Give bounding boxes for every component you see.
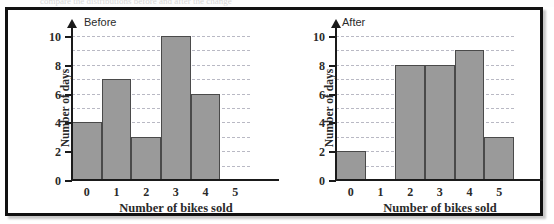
- x-axis-title-after: Number of bikes sold: [383, 201, 496, 216]
- x-tick-label: 1: [378, 185, 384, 200]
- x-axis-title-before: Number of bikes sold: [119, 201, 232, 216]
- x-tick-label: 3: [437, 185, 443, 200]
- y-tick: 2: [65, 151, 72, 153]
- bar: [72, 122, 102, 180]
- y-tick-label: 10: [49, 30, 61, 45]
- x-tick-label: 5: [496, 185, 502, 200]
- x-tick-label: 0: [84, 185, 90, 200]
- y-tick: 2: [329, 151, 336, 153]
- chart-before: Before0246810012345Number of bikes soldN…: [10, 10, 276, 213]
- x-axis-line-after: [335, 179, 543, 181]
- y-tick-label: 10: [313, 30, 325, 45]
- y-tick-label: 0: [55, 174, 61, 189]
- y-tick: 8: [329, 65, 336, 67]
- y-tick-label: 2: [55, 145, 61, 160]
- y-tick: 0: [329, 180, 336, 182]
- bars-before: [72, 36, 250, 180]
- y-axis-title-after: Number of days: [323, 69, 335, 147]
- y-tick: 10: [65, 36, 72, 38]
- bar: [484, 137, 514, 180]
- plot-area-before: 0246810012345Number of bikes soldNumber …: [72, 36, 250, 180]
- bar: [455, 50, 485, 180]
- x-tick-label: 5: [232, 185, 238, 200]
- y-axis-line-after: [335, 25, 337, 180]
- bar: [161, 36, 191, 180]
- y-tick: 8: [65, 65, 72, 67]
- bar: [191, 94, 221, 180]
- chart-title-after: After: [342, 16, 365, 28]
- bar: [131, 137, 161, 180]
- x-tick-label: 2: [407, 185, 413, 200]
- y-tick-label: 0: [319, 174, 325, 189]
- x-axis-line-before: [71, 179, 279, 181]
- chart-after: After0246810012345Number of bikes soldNu…: [274, 10, 540, 213]
- x-tick-label: 4: [467, 185, 473, 200]
- charts-container: Before0246810012345Number of bikes soldN…: [8, 10, 540, 213]
- figure-frame: Before0246810012345Number of bikes soldN…: [5, 7, 543, 216]
- figure-page: compare the distributions before and aft…: [0, 0, 554, 224]
- cropped-text-ghost: compare the distributions before and aft…: [40, 0, 232, 6]
- x-tick-label: 2: [143, 185, 149, 200]
- y-tick-label: 2: [319, 145, 325, 160]
- y-axis-title-before: Number of days: [59, 69, 71, 147]
- x-tick-label: 1: [114, 185, 120, 200]
- y-tick: 10: [329, 36, 336, 38]
- bar: [102, 79, 132, 180]
- bar: [425, 65, 455, 180]
- bars-after: [336, 36, 514, 180]
- x-tick-label: 3: [173, 185, 179, 200]
- y-tick: 0: [65, 180, 72, 182]
- plot-area-after: 0246810012345Number of bikes soldNumber …: [336, 36, 514, 180]
- y-axis-arrow-icon: [331, 19, 341, 28]
- chart-title-before: Before: [84, 16, 116, 28]
- bar: [395, 65, 425, 180]
- cropped-text-sliver: compare the distributions before and aft…: [0, 0, 554, 7]
- x-tick-label: 4: [203, 185, 209, 200]
- y-axis-arrow-icon: [67, 19, 77, 28]
- y-axis-line-before: [71, 25, 73, 180]
- x-tick-label: 0: [348, 185, 354, 200]
- bar: [336, 151, 366, 180]
